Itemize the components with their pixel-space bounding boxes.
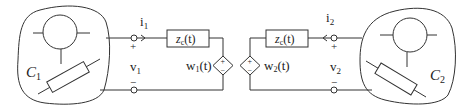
left-circuit-node-circle [43,15,77,49]
v1-label: v1 [130,59,141,76]
v1-minus-label: − [130,76,136,88]
left-circuit-block: C1 [18,6,110,104]
left-circuit-label: C1 [26,64,41,82]
right-bottom-wire-to-source [250,75,331,90]
right-source-plus: + [248,57,253,66]
v2-plus-label: + [331,40,337,52]
right-circuit-resistor [375,63,417,95]
right-circuit-label: C2 [430,67,445,85]
w2-label: w2(t) [264,58,290,74]
v2-label: v2 [330,59,341,76]
left-circuit-boundary [18,6,110,104]
right-circuit-block: C2 [360,8,455,104]
left-source-minus: − [221,66,226,75]
left-bottom-wire-to-source [137,75,223,90]
left-impedance-to-source-wire [209,38,223,56]
w1-label: w1(t) [186,58,212,74]
right-source-minus: − [248,66,253,75]
v1-plus-label: + [130,40,136,52]
i1-label: i1 [140,14,148,31]
right-impedance-label: zc(t) [274,32,295,47]
left-source-plus: + [221,57,226,66]
i2-label: i2 [326,10,334,27]
circuit-diagram: C1 i1 + v1 − zc(t) + − w1(t) + − w2(t) z… [0,0,469,109]
v2-minus-label: − [331,76,337,88]
right-source-to-impedance-wire [250,38,266,56]
left-circuit-resistor [47,62,90,93]
right-circuit-node-circle [393,18,427,52]
left-impedance-label: zc(t) [175,32,196,47]
